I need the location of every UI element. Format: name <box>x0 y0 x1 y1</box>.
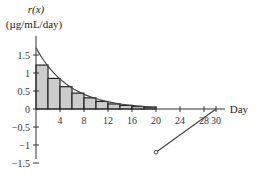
y-axis-label-function: r(x) <box>28 3 45 16</box>
bar <box>60 87 72 109</box>
x-axis-label: Day <box>230 103 249 115</box>
open-circle-marker <box>154 150 158 154</box>
y-tick-label: −1.5 <box>12 158 30 169</box>
bar <box>36 65 48 109</box>
y-tick-label: −0.5 <box>12 122 30 133</box>
bar <box>120 105 132 109</box>
y-tick-label: 0.5 <box>18 86 31 97</box>
x-tick-label: 24 <box>175 115 185 126</box>
y-tick-label: 0 <box>25 104 30 115</box>
y-tick-label: 1 <box>25 68 30 79</box>
bar <box>72 93 84 109</box>
x-tick-label: 12 <box>103 115 113 126</box>
x-tick-label: 20 <box>151 115 161 126</box>
bar <box>48 78 60 109</box>
linear-segment <box>156 109 216 152</box>
x-tick-label: 16 <box>127 115 137 126</box>
y-axis-label-units: (µg/mL/day) <box>6 18 63 31</box>
bar <box>84 98 96 109</box>
bar <box>108 104 120 109</box>
x-tick-label: 8 <box>82 115 87 126</box>
y-tick-label: 1.5 <box>18 50 31 61</box>
chart: 1.510.50−0.5−1−1.548121620242830r(x)(µg/… <box>0 0 266 180</box>
bar <box>96 101 108 109</box>
y-tick-label: −1 <box>19 140 30 151</box>
x-tick-label: 30 <box>211 115 221 126</box>
x-tick-label: 4 <box>58 115 63 126</box>
